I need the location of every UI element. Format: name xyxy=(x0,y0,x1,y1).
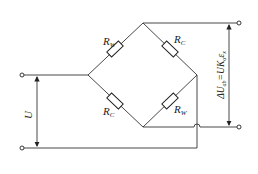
supply-voltage-label: U xyxy=(22,110,34,119)
terminal-output-b xyxy=(237,125,241,129)
label-rw-bottom: RW xyxy=(173,103,188,117)
terminal-output-a xyxy=(237,21,241,25)
label-rc-top: RC xyxy=(173,33,186,47)
bridge-circuit-diagram: RW RC RC RW U ΔUab=UKαεx xyxy=(0,0,258,174)
label-rc-bottom: RC xyxy=(102,105,115,119)
terminal-supply-bottom xyxy=(20,146,24,150)
terminal-supply-top xyxy=(20,73,24,77)
label-rw-top: RW xyxy=(102,35,117,49)
output-voltage-label: ΔUab=UKαεx xyxy=(216,51,227,100)
external-wires xyxy=(24,23,237,148)
